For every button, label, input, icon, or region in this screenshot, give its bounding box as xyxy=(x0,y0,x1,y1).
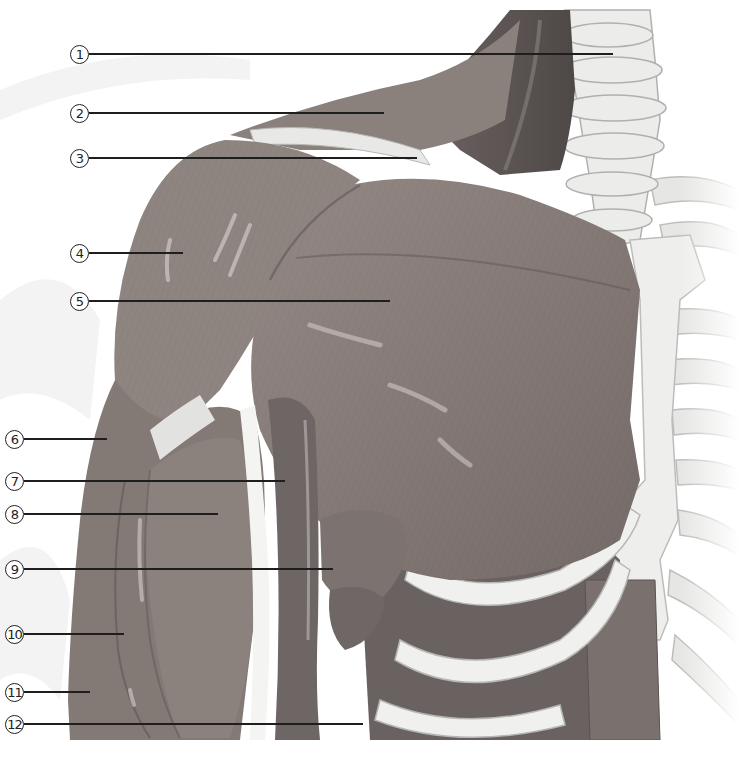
label-1: 1 xyxy=(70,43,613,65)
label-5: 5 xyxy=(70,290,390,312)
label-number: 2 xyxy=(70,104,89,123)
leader-line xyxy=(89,157,417,159)
label-12: 12 xyxy=(5,713,363,735)
label-8: 8 xyxy=(5,503,218,525)
label-7: 7 xyxy=(5,470,285,492)
label-number: 5 xyxy=(70,292,89,311)
label-9: 9 xyxy=(5,558,333,580)
leader-line xyxy=(24,438,107,440)
label-number: 12 xyxy=(5,715,24,734)
leader-line xyxy=(24,480,285,482)
leader-line xyxy=(89,300,390,302)
leader-line xyxy=(89,252,183,254)
label-4: 4 xyxy=(70,242,183,264)
label-6: 6 xyxy=(5,428,107,450)
label-number: 3 xyxy=(70,149,89,168)
label-number: 6 xyxy=(5,430,24,449)
label-10: 10 xyxy=(5,623,124,645)
label-number: 4 xyxy=(70,244,89,263)
label-number: 8 xyxy=(5,505,24,524)
label-number: 10 xyxy=(5,625,24,644)
leader-line xyxy=(24,691,90,693)
label-number: 11 xyxy=(5,683,24,702)
label-2: 2 xyxy=(70,102,384,124)
label-number: 9 xyxy=(5,560,24,579)
label-number: 7 xyxy=(5,472,24,491)
leader-line xyxy=(89,53,613,55)
leader-line xyxy=(24,723,363,725)
leader-line xyxy=(24,568,333,570)
leader-line xyxy=(89,112,384,114)
leader-line xyxy=(24,513,218,515)
label-11: 11 xyxy=(5,681,90,703)
label-3: 3 xyxy=(70,147,417,169)
label-number: 1 xyxy=(70,45,89,64)
leader-line xyxy=(24,633,124,635)
